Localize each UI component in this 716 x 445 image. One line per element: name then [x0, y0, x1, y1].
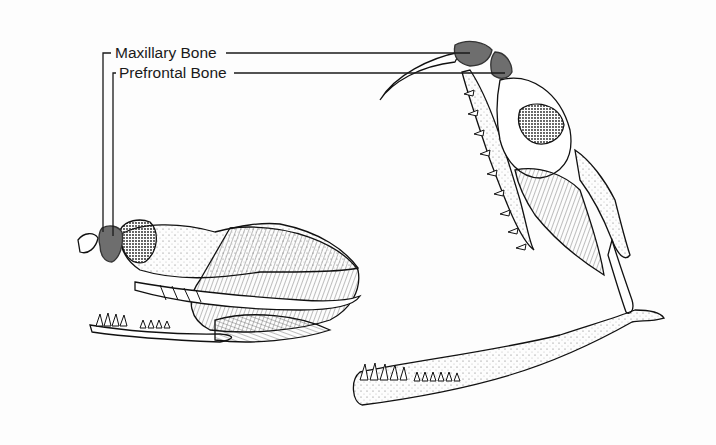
maxillary-leader-line: [103, 53, 111, 232]
skull-illustration: [0, 0, 716, 445]
closed-skull: [78, 220, 360, 342]
label-maxillary-bone: Maxillary Bone: [112, 44, 220, 62]
label-prefrontal-bone: Prefrontal Bone: [116, 64, 230, 82]
diagram-canvas: Maxillary Bone Prefrontal Bone: [0, 0, 716, 445]
prefrontal-leader-line: [113, 73, 117, 236]
open-skull: [353, 41, 664, 405]
prefrontal-highlight-open: [491, 52, 512, 78]
maxillary-highlight-open: [454, 41, 492, 66]
